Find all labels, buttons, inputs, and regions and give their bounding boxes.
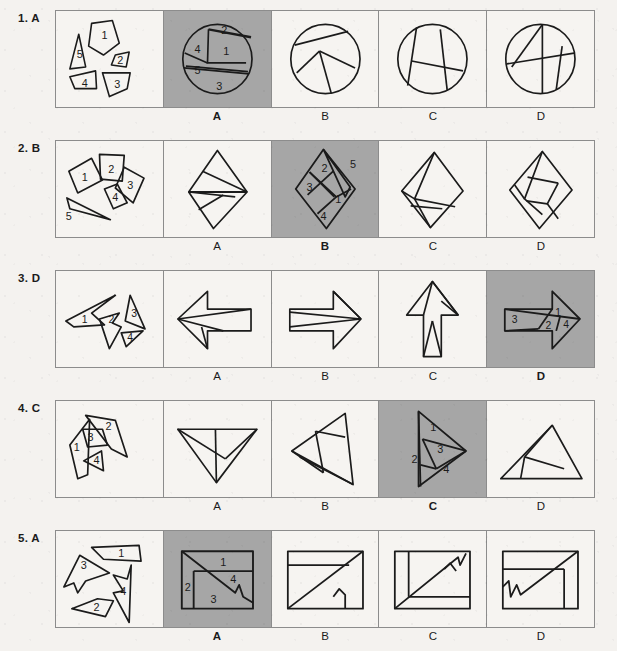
piece-number: 2 xyxy=(117,54,123,66)
piece-number: 3 xyxy=(81,559,87,571)
option-cell-3-A[interactable] xyxy=(164,271,272,367)
option-cell-1-D[interactable] xyxy=(487,11,594,107)
piece-number: 4 xyxy=(127,332,133,343)
option-letter-3-B: B xyxy=(271,370,379,388)
question-row-4: 4. C 1 2 3 4 xyxy=(0,390,617,520)
pieces-panel-1: 1 2 3 4 5 xyxy=(56,11,164,107)
option-cell-3-D[interactable]: 1 2 3 4 xyxy=(487,271,594,367)
question-label-3: 3. D xyxy=(18,272,40,284)
piece-number: 1 xyxy=(555,307,561,318)
option-cell-3-B[interactable] xyxy=(272,271,380,367)
option-cell-1-A[interactable]: 1 2 3 4 5 xyxy=(164,11,272,107)
option-letter-2-D: D xyxy=(487,240,595,258)
spacer xyxy=(55,500,163,518)
option-cell-4-D[interactable] xyxy=(487,401,594,497)
spacer xyxy=(55,240,163,258)
piece-number: 2 xyxy=(221,24,227,36)
option-cell-5-D[interactable] xyxy=(487,531,594,627)
question-label-5: 5. A xyxy=(18,532,40,544)
answer-grid-1: 1 2 3 4 5 xyxy=(55,10,595,108)
piece-number: 4 xyxy=(444,463,450,475)
option-letter-1-A: A xyxy=(163,110,271,128)
option-letters-row-5: A B C D xyxy=(55,630,595,648)
option-letter-3-C: C xyxy=(379,370,487,388)
option-letter-1-B: B xyxy=(271,110,379,128)
option-cell-2-A[interactable] xyxy=(164,141,272,237)
piece-number: 3 xyxy=(127,179,133,191)
option-letter-1-D: D xyxy=(487,110,595,128)
piece-number: 4 xyxy=(320,210,326,222)
question-row-1: 1. A 1 2 3 4 5 xyxy=(0,0,617,130)
option-cell-5-B[interactable] xyxy=(272,531,380,627)
piece-number: 2 xyxy=(412,453,418,465)
piece-number: 1 xyxy=(101,29,107,41)
answer-grid-5: 1 2 3 4 1 2 xyxy=(55,530,595,628)
question-label-2: 2. B xyxy=(18,142,40,154)
spacer xyxy=(55,370,163,388)
piece-number: 2 xyxy=(108,314,114,325)
answer-grid-3: 1 2 3 4 xyxy=(55,270,595,368)
option-cell-3-C[interactable] xyxy=(379,271,487,367)
option-letter-2-A: A xyxy=(163,240,271,258)
question-row-5: 5. A 1 2 3 4 xyxy=(0,520,617,650)
option-cell-5-A[interactable]: 1 2 3 4 xyxy=(164,531,272,627)
piece-number: 4 xyxy=(82,77,88,89)
question-label-4: 4. C xyxy=(18,402,40,414)
option-letter-5-A: A xyxy=(163,630,271,648)
option-cell-1-C[interactable] xyxy=(379,11,487,107)
option-letters-row-3: A B C D xyxy=(55,370,595,388)
piece-number: 2 xyxy=(108,163,114,175)
piece-number: 2 xyxy=(185,581,191,593)
test-sheet: 1. A 1 2 3 4 5 xyxy=(0,0,617,651)
piece-number: 1 xyxy=(223,45,229,57)
piece-number: 3 xyxy=(306,181,312,193)
pieces-panel-5: 1 2 3 4 xyxy=(56,531,164,627)
option-letter-4-A: A xyxy=(163,500,271,518)
piece-number: 5 xyxy=(194,64,200,76)
piece-number: 4 xyxy=(94,454,100,466)
piece-number: 1 xyxy=(118,547,124,559)
pieces-panel-3: 1 2 3 4 xyxy=(56,271,164,367)
piece-number: 3 xyxy=(512,314,518,325)
option-cell-4-B[interactable] xyxy=(272,401,380,497)
piece-number: 3 xyxy=(88,431,94,443)
piece-number: 3 xyxy=(210,593,216,605)
piece-number: 5 xyxy=(350,158,356,170)
piece-number: 4 xyxy=(112,191,118,203)
question-label-1: 1. A xyxy=(18,12,40,24)
option-cell-2-D[interactable] xyxy=(487,141,594,237)
piece-number: 1 xyxy=(220,556,226,568)
piece-number: 4 xyxy=(194,43,200,55)
piece-number: 1 xyxy=(82,314,88,325)
piece-number: 2 xyxy=(105,420,111,432)
option-letter-3-A: A xyxy=(163,370,271,388)
piece-number: 4 xyxy=(563,319,569,330)
option-letter-5-D: D xyxy=(487,630,595,648)
piece-number: 5 xyxy=(66,210,72,222)
option-cell-2-C[interactable] xyxy=(379,141,487,237)
piece-number: 2 xyxy=(546,320,552,331)
piece-number: 1 xyxy=(431,421,437,433)
option-cell-4-C[interactable]: 1 2 3 4 xyxy=(379,401,487,497)
option-letter-2-C: C xyxy=(379,240,487,258)
piece-number: 5 xyxy=(77,48,83,60)
option-letter-5-B: B xyxy=(271,630,379,648)
option-cell-5-C[interactable] xyxy=(379,531,487,627)
option-cell-4-A[interactable] xyxy=(164,401,272,497)
option-letter-4-C: C xyxy=(379,500,487,518)
option-letters-row-2: A B C D xyxy=(55,240,595,258)
option-cell-1-B[interactable] xyxy=(272,11,380,107)
pieces-panel-2: 1 2 3 4 5 xyxy=(56,141,164,237)
option-letter-4-B: B xyxy=(271,500,379,518)
piece-number: 4 xyxy=(120,585,126,597)
option-cell-2-B[interactable]: 1 2 3 4 5 xyxy=(272,141,380,237)
piece-number: 3 xyxy=(216,80,222,92)
option-letters-row-4: A B C D xyxy=(55,500,595,518)
piece-number: 3 xyxy=(438,443,444,455)
pieces-panel-4: 1 2 3 4 xyxy=(56,401,164,497)
spacer xyxy=(55,110,163,128)
option-letter-1-C: C xyxy=(379,110,487,128)
piece-number: 2 xyxy=(94,601,100,613)
spacer xyxy=(55,630,163,648)
answer-grid-2: 1 2 3 4 5 xyxy=(55,140,595,238)
